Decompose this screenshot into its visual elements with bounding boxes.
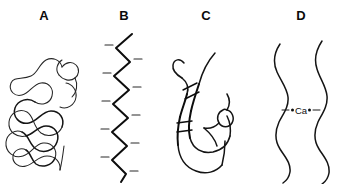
bridge-strand-left xyxy=(275,44,291,183)
panel-a-label: A xyxy=(0,8,88,23)
coil-strand-main xyxy=(6,59,63,170)
junction-strand-right xyxy=(189,53,230,152)
zigzag-chain-diagram xyxy=(88,26,160,184)
bridge-dot-right xyxy=(308,109,311,112)
random-coil-diagram xyxy=(0,26,88,184)
coil-free-end xyxy=(60,146,64,170)
polymer-conformation-figure: A xyxy=(0,0,350,184)
panel-b-label: B xyxy=(88,8,160,23)
panel-b: B xyxy=(88,0,160,184)
junction-strand-left xyxy=(173,60,222,173)
calcium-ion-label: Ca xyxy=(295,105,308,116)
panel-c: C xyxy=(160,0,252,184)
junction-zone-diagram xyxy=(160,26,252,184)
panel-d-label: D xyxy=(252,8,350,23)
coil-strand-branch xyxy=(57,60,79,108)
bridge-strand-right xyxy=(315,41,329,184)
bridge-dot-left xyxy=(291,109,294,112)
panel-d: D Ca xyxy=(252,0,350,184)
panel-a: A xyxy=(0,0,88,184)
zigzag-backbone xyxy=(112,34,132,182)
junction-free-ends xyxy=(204,128,225,165)
calcium-bridge-diagram: Ca xyxy=(252,26,350,184)
panel-c-label: C xyxy=(160,8,252,23)
